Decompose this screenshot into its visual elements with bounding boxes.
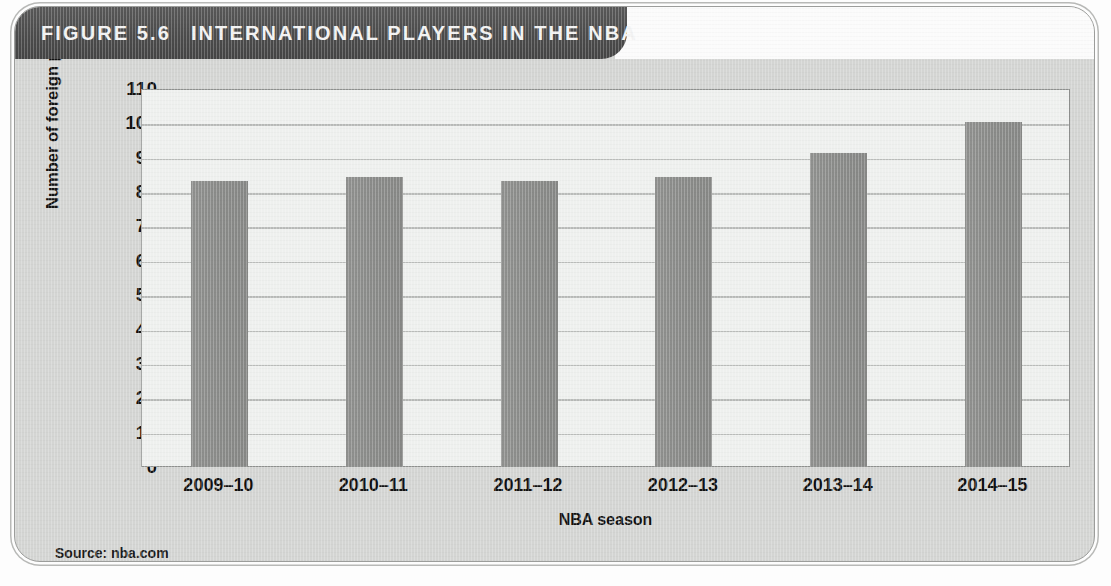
x-axis-tick-2011–12: 2011–12 [494,475,563,496]
bar-2009–10 [191,181,248,466]
x-axis-tick-2009–10: 2009–10 [183,475,253,496]
bar-2012–13 [655,177,712,466]
x-axis-tick-2012–13: 2012–13 [648,475,718,496]
chart-region: Number of foreign players 11010090807060… [15,59,1095,562]
header-white-strip [615,7,1095,59]
figure-title-banner: FIGURE 5.6 INTERNATIONAL PLAYERS IN THE … [15,7,627,59]
figure-title-text: INTERNATIONAL PLAYERS IN THE NBA [191,22,638,45]
x-axis-tick-labels: 2009–102010–112011–122012–132013–142014–… [141,475,1070,505]
bar-2013–14 [810,153,867,466]
x-axis-tick-2013–14: 2013–14 [803,475,873,496]
figure-number-label: FIGURE 5.6 [41,22,171,45]
bar-2014–15 [965,122,1022,466]
x-axis-tick-2010–11: 2010–11 [339,475,408,496]
bar-2011–12 [501,181,558,466]
bar-series [142,90,1069,466]
plot-area [141,89,1070,467]
x-axis-title: NBA season [141,511,1070,529]
source-note: Source: nba.com [55,545,169,561]
figure-card: FIGURE 5.6 INTERNATIONAL PLAYERS IN THE … [14,6,1095,562]
x-axis-tick-2014–15: 2014–15 [958,475,1028,496]
bar-2010–11 [346,177,403,466]
